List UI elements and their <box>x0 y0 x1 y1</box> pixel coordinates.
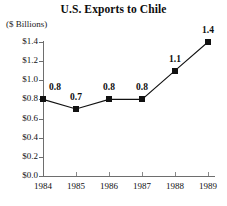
data-point-label: 1.4 <box>188 25 227 35</box>
data-point-label: 1.1 <box>155 54 195 64</box>
data-point-label: 0.7 <box>56 92 96 102</box>
data-point-label: 0.8 <box>122 82 162 92</box>
data-point-marker <box>172 68 178 74</box>
plot-area: $0.0$0.2$0.4$0.6$0.8$1.0$1.2$1.4 1984198… <box>0 0 227 206</box>
data-point-marker <box>40 96 46 102</box>
data-point-marker <box>73 106 79 112</box>
data-point-label: 0.8 <box>35 82 75 92</box>
data-point-marker <box>106 96 112 102</box>
chart-container: U.S. Exports to Chile ($ Billions) $0.0$… <box>0 0 227 206</box>
data-point-marker <box>205 39 211 45</box>
data-point-marker <box>139 96 145 102</box>
